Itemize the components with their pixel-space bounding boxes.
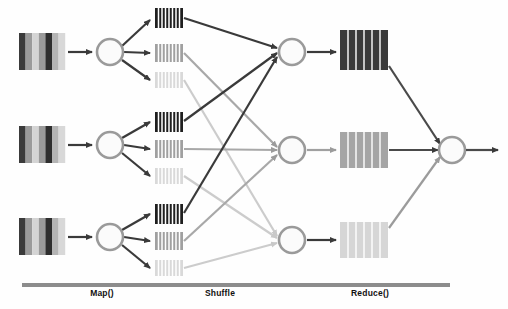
edge-mapper-3-to-shuffle-3-dark xyxy=(122,214,150,230)
input-to-mapper-edge-layer xyxy=(68,52,92,237)
mapreduce-diagram xyxy=(0,0,508,309)
shuffle-block-3-medium xyxy=(155,232,183,250)
edge-mapper-1-to-shuffle-1-medium xyxy=(124,52,150,53)
edge-mapper-1-to-shuffle-1-dark xyxy=(122,20,150,46)
mapper-node-layer xyxy=(97,39,123,250)
edge-shuffle-1-dark-to-reducer-1 xyxy=(184,18,277,48)
mapper-node-1[interactable] xyxy=(97,39,123,65)
reduce-block-3 xyxy=(340,222,388,258)
shuffle-block-2-dark xyxy=(155,112,183,132)
edge-shuffle-2-medium-to-reducer-2 xyxy=(184,149,277,150)
stage-label-shuffle: Shuffle xyxy=(150,288,290,298)
reducer-node-2[interactable] xyxy=(279,137,305,163)
reducer-to-block-edge-layer xyxy=(307,52,336,240)
edge-shuffle-3-dark-to-reducer-1 xyxy=(184,57,277,213)
input-block-layer xyxy=(19,33,65,255)
mapper-node-2[interactable] xyxy=(97,132,123,158)
edge-shuffle-2-dark-to-reducer-1 xyxy=(184,53,277,121)
reduce-block-layer xyxy=(340,30,388,258)
edge-mapper-2-to-shuffle-2-dark xyxy=(122,122,150,138)
edge-mapper-1-to-shuffle-1-light xyxy=(122,60,150,80)
reducer-node-3[interactable] xyxy=(279,227,305,253)
reduce-block-1 xyxy=(340,30,388,70)
stage-label-reduce: Reduce() xyxy=(290,288,450,298)
shuffle-block-2-medium xyxy=(155,140,183,158)
stage-bar-layer xyxy=(22,283,450,287)
shuffle-block-1-medium xyxy=(155,44,183,62)
edge-mapper-2-to-shuffle-2-light xyxy=(122,153,150,176)
edge-reduce-1-to-output xyxy=(389,66,440,144)
input-block-3 xyxy=(19,218,65,255)
mapper-node-3[interactable] xyxy=(97,224,123,250)
output-node-layer xyxy=(439,137,498,163)
input-block-1 xyxy=(19,33,65,70)
block-to-output-edge-layer xyxy=(389,66,440,228)
stage-bar-shuffle xyxy=(150,283,290,287)
output-node[interactable] xyxy=(439,137,465,163)
edge-mapper-3-to-shuffle-3-light xyxy=(122,245,150,268)
reducer-node-1[interactable] xyxy=(279,39,305,65)
edge-mapper-2-to-shuffle-2-medium xyxy=(124,145,150,149)
shuffle-block-2-light xyxy=(155,168,183,184)
reducer-node-layer xyxy=(279,39,305,253)
shuffle-block-3-dark xyxy=(155,204,183,224)
stage-bar-reduce xyxy=(290,283,450,287)
mapper-to-shuffle-edge-layer xyxy=(122,20,150,268)
shuffle-edge-layer xyxy=(184,18,277,268)
reduce-block-2 xyxy=(340,132,388,168)
edge-mapper-3-to-shuffle-3-medium xyxy=(124,237,150,241)
input-block-2 xyxy=(19,126,65,163)
edge-reduce-3-to-output xyxy=(389,157,440,228)
edge-shuffle-3-light-to-reducer-3 xyxy=(184,243,277,268)
shuffle-block-3-light xyxy=(155,260,183,276)
shuffle-block-1-dark xyxy=(155,8,183,28)
edge-shuffle-1-light-to-reducer-3 xyxy=(184,80,277,236)
shuffle-block-1-light xyxy=(155,72,183,88)
shuffle-block-layer xyxy=(155,8,183,276)
